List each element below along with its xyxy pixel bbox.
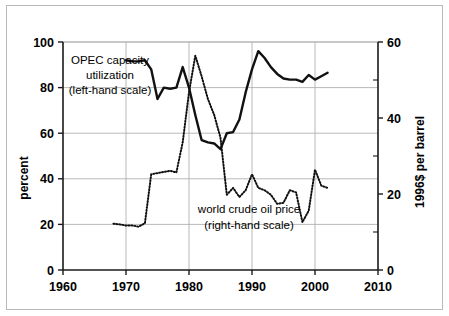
x-axis-tick-label: 1990 xyxy=(238,280,266,294)
y2-axis-tick-label: 60 xyxy=(387,36,401,50)
annotation-oil-line1: world crude oil price xyxy=(197,203,300,215)
y2-axis-tick-label: 20 xyxy=(387,188,401,202)
x-axis-tick-label: 2010 xyxy=(364,280,392,294)
annotation-oil-line2: (right-hand scale) xyxy=(204,219,294,231)
left-axis-title: percent xyxy=(17,156,31,199)
right-axis-title: 1996$ per barrel xyxy=(413,116,427,208)
y-axis-tick-label: 100 xyxy=(33,36,54,50)
x-axis-tick-label: 1980 xyxy=(175,280,203,294)
annotation-opec-capacity: OPEC capacity utilization (left-hand sca… xyxy=(69,54,152,96)
series-world-crude-oil-price-line xyxy=(113,56,327,227)
annotation-oil-price: world crude oil price (right-hand scale) xyxy=(197,203,300,231)
y2-axis-tick-label: 0 xyxy=(387,264,394,278)
series-opec-capacity-utilization-line xyxy=(126,51,328,149)
annotation-opec-line3: (left-hand scale) xyxy=(69,84,152,96)
axis-titles-group: percent 1996$ per barrel xyxy=(17,116,427,208)
x-axis-tick-label: 2000 xyxy=(301,280,329,294)
figure-container: 0204060801000204060196019701980199020002… xyxy=(0,0,449,316)
y-axis-tick-label: 80 xyxy=(40,81,54,95)
annotation-opec-line2: utilization xyxy=(86,69,134,81)
y2-axis-tick-label: 40 xyxy=(387,112,401,126)
y-axis-tick-label: 60 xyxy=(40,127,54,141)
chart-svg: 0204060801000204060196019701980199020002… xyxy=(0,0,449,316)
y-axis-tick-label: 0 xyxy=(47,264,54,278)
plot-area-wrapper: 0204060801000204060196019701980199020002… xyxy=(0,0,449,316)
x-axis-tick-label: 1970 xyxy=(112,280,140,294)
annotation-opec-line1: OPEC capacity xyxy=(71,54,149,66)
y-axis-tick-label: 20 xyxy=(40,218,54,232)
data-series-group xyxy=(113,51,327,227)
x-axis-tick-label: 1960 xyxy=(49,280,77,294)
y-axis-tick-label: 40 xyxy=(40,172,54,186)
